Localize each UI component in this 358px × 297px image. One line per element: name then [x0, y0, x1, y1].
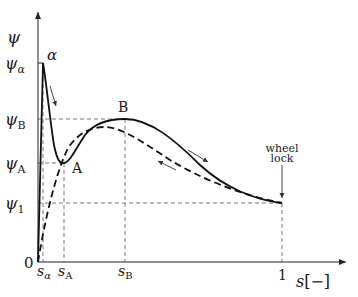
ytick-psi1: ψ1 — [5, 194, 25, 216]
point-A-label: A — [71, 160, 83, 176]
point-B-label: B — [118, 99, 128, 115]
x-axis-label: s[−] — [296, 272, 330, 291]
xtick-sB: sB — [118, 263, 133, 281]
friction-slip-diagram: ψ ψα ψB ψA ψ1 0 sα sA sB 1 s[−] α A B wh… — [0, 0, 358, 297]
xtick-sA: sA — [58, 263, 73, 281]
y-axis-label: ψ — [7, 27, 21, 47]
origin-label: 0 — [24, 254, 34, 272]
arrow-descending-alpha — [50, 86, 56, 106]
ytick-psiA: ψA — [5, 154, 27, 176]
xtick-salpha: sα — [37, 263, 51, 281]
point-alpha-label: α — [47, 46, 57, 64]
arrow-backward — [158, 161, 176, 170]
ytick-psialpha: ψα — [5, 54, 26, 76]
ytick-psiB: ψB — [5, 110, 26, 132]
dashed-curve — [38, 127, 282, 262]
wheel-lock-line2: lock — [271, 152, 294, 165]
xtick-one: 1 — [278, 267, 287, 283]
